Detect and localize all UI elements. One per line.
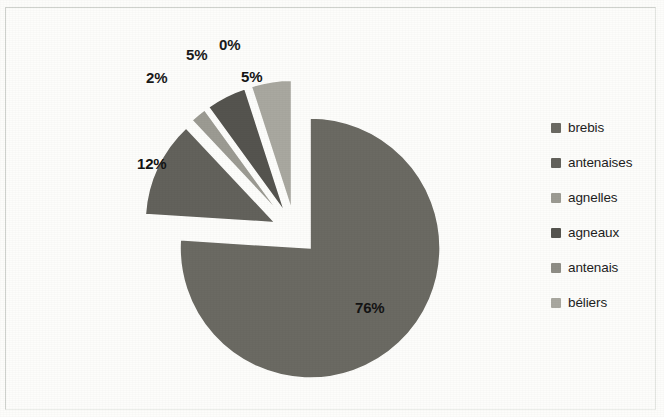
- legend-item-label: béliers: [568, 295, 607, 310]
- legend-item-label: antenais: [568, 260, 618, 275]
- slice-label-beliers: 5%: [241, 68, 262, 85]
- legend-item-brebis[interactable]: brebis: [551, 110, 656, 145]
- legend-item-agnelles[interactable]: agnelles: [551, 180, 656, 215]
- legend-item-antenais[interactable]: antenais: [551, 250, 656, 285]
- legend-swatch-icon: [551, 263, 561, 273]
- legend-item-label: antenaises: [568, 155, 632, 170]
- legend-swatch-icon: [551, 228, 561, 238]
- slice-label-antenais: 0%: [219, 36, 240, 53]
- slice-label-antenaises: 12%: [137, 155, 166, 172]
- pie-chart-figure: 12% 2% 5% 0% 5% 76% brebis antenaises ag…: [0, 0, 664, 417]
- pie-svg: [0, 0, 520, 417]
- legend-item-label: agneaux: [568, 225, 619, 240]
- pie-slice-brebis[interactable]: [180, 118, 440, 378]
- legend-swatch-icon: [551, 158, 561, 168]
- legend-item-agneaux[interactable]: agneaux: [551, 215, 656, 250]
- legend-swatch-icon: [551, 193, 561, 203]
- pie-slices-group: [145, 80, 440, 378]
- legend-item-label: brebis: [568, 120, 604, 135]
- pie-chart-plot-area: 12% 2% 5% 0% 5% 76%: [0, 0, 520, 417]
- slice-label-agneaux: 5%: [186, 46, 207, 63]
- legend: brebis antenaises agnelles agneaux anten…: [551, 110, 656, 320]
- legend-swatch-icon: [551, 298, 561, 308]
- legend-swatch-icon: [551, 123, 561, 133]
- legend-item-beliers[interactable]: béliers: [551, 285, 656, 320]
- slice-label-agnelles: 2%: [146, 69, 167, 86]
- slice-label-brebis: 76%: [355, 299, 384, 316]
- legend-item-antenaises[interactable]: antenaises: [551, 145, 656, 180]
- legend-item-label: agnelles: [568, 190, 618, 205]
